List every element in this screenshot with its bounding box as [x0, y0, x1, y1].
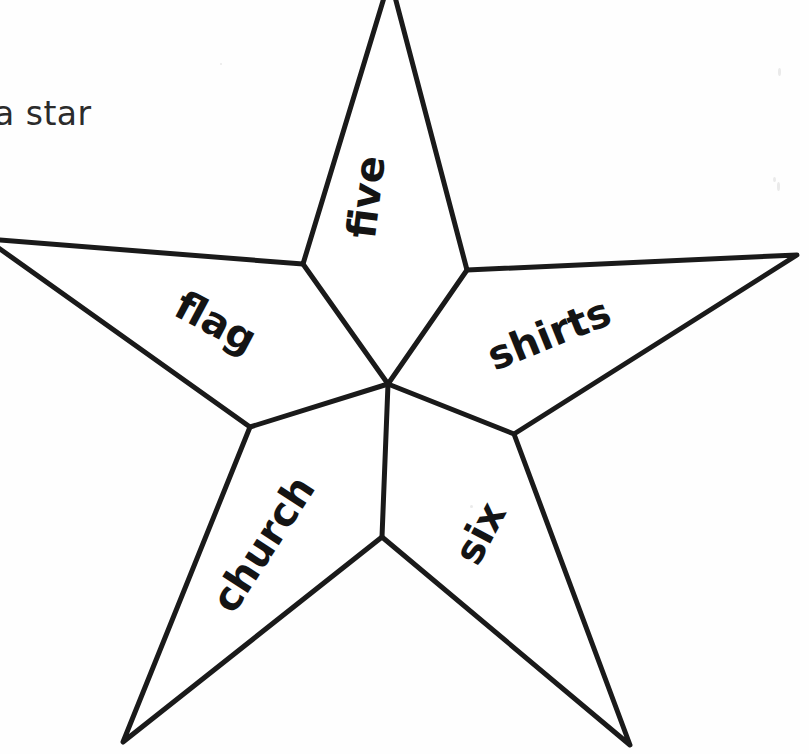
scan-speck — [773, 177, 776, 182]
scan-speck — [778, 68, 781, 76]
star-figure — [0, 0, 809, 754]
scan-speck — [220, 63, 222, 65]
scan-speck — [470, 505, 473, 508]
worksheet-page: a star five flag shirts church six — [0, 0, 809, 754]
scan-speck — [777, 182, 780, 191]
instruction-text: a star — [0, 94, 92, 134]
